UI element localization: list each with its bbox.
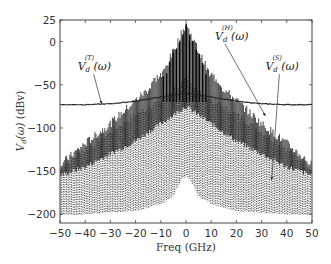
svg-text:Vd (ω): Vd (ω) [265,60,299,74]
y-tick-label: −100 [27,122,56,134]
y-tick-label: −50 [34,79,56,91]
x-tick-label: −50 [49,227,71,239]
svg-text:Vd (ω): Vd (ω) [78,60,112,74]
x-tick-label: −40 [74,227,96,239]
x-tick-label: 10 [205,227,218,239]
x-tick-label: −30 [99,227,121,239]
y-axis-label: Vd(ω) (dBv) [14,91,28,152]
y-tick-label: −200 [27,208,56,220]
x-tick-label: 50 [305,227,318,239]
x-tick-label: 30 [255,227,268,239]
x-tick-label: 0 [183,227,190,239]
y-tick-label: 25 [43,14,56,26]
x-tick-label: 20 [230,227,243,239]
annotation-t: (T)Vd (ω) [78,54,112,104]
y-tick-label: 0 [49,36,56,48]
arrow-icon [94,74,102,104]
x-tick-label: −20 [125,227,147,239]
svg-text:Vd (ω): Vd (ω) [215,30,249,44]
x-axis-label: Freq (GHz) [156,241,216,253]
x-tick-label: −10 [150,227,172,239]
x-tick-label: 40 [280,227,293,239]
y-tick-label: −150 [27,165,56,177]
spectrum-chart: −50−40−30−20−1001020304050250−50−100−150… [0,0,331,264]
svg-text:Vd(ω) (dBv): Vd(ω) (dBv) [14,91,28,152]
chart-canvas: −50−40−30−20−1001020304050250−50−100−150… [0,0,331,264]
